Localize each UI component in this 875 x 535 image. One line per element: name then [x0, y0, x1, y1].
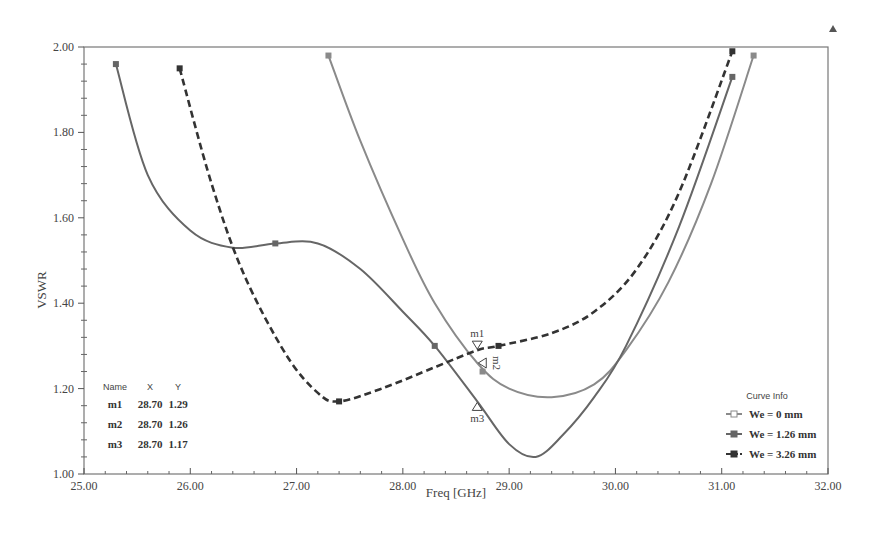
marker-table-cell: m2	[108, 418, 123, 430]
y-tick-label: 1.40	[53, 296, 74, 310]
y-tick-label: 1.60	[53, 211, 74, 225]
y-tick-label: 1.00	[53, 467, 74, 481]
marker-table-cell: m3	[108, 438, 123, 450]
series-end-marker	[325, 53, 331, 59]
marker-m1-label: m1	[470, 327, 484, 339]
series-group	[113, 48, 757, 457]
series-point-marker	[336, 398, 342, 404]
marker-table-cell: 1.26	[168, 418, 188, 430]
x-tick-label: 30.00	[602, 479, 629, 493]
marker-table-cell: m1	[108, 398, 123, 410]
series-end-marker	[729, 48, 735, 54]
series-line	[328, 56, 753, 398]
series-1	[325, 53, 756, 398]
legend-item-1[interactable]: We = 0 mm	[726, 408, 803, 420]
series-point-marker	[496, 343, 502, 349]
x-tick-label: 26.00	[177, 479, 204, 493]
x-tick-label: 29.00	[496, 479, 523, 493]
corner-triangle-icon[interactable]	[829, 25, 837, 32]
marker-table-cell: 28.70	[138, 418, 163, 430]
plot-border	[84, 47, 828, 474]
y-tick-label: 2.00	[53, 40, 74, 54]
series-line	[180, 51, 733, 401]
marker-table: NameXYm128.701.29m228.701.26m328.701.17	[103, 382, 188, 450]
marker-table-header: Name	[103, 382, 127, 392]
marker-m2-label: m2	[491, 356, 503, 370]
marker-table-cell: 28.70	[138, 438, 163, 450]
legend-marker-icon	[731, 431, 737, 437]
plot-frame	[84, 47, 828, 474]
marker-table-cell: 1.29	[168, 398, 188, 410]
x-axis-title: Freq [GHz]	[426, 485, 486, 500]
marker-table-cell: 28.70	[138, 398, 163, 410]
series-end-marker	[177, 65, 183, 71]
marker-table-cell: 1.17	[168, 438, 188, 450]
series-point-marker	[272, 240, 278, 246]
legend-label: We = 3.26 mm	[749, 448, 816, 460]
x-tick-label: 25.00	[71, 479, 98, 493]
series-line	[116, 64, 732, 457]
x-tick-label: 31.00	[708, 479, 735, 493]
x-tick-label: 27.00	[283, 479, 310, 493]
legend-marker-icon	[731, 411, 737, 417]
y-tick-label: 1.20	[53, 382, 74, 396]
x-tick-label: 32.00	[815, 479, 842, 493]
legend-label: We = 1.26 mm	[749, 428, 816, 440]
marker-m3-label: m3	[470, 412, 485, 424]
series-end-marker	[751, 53, 757, 59]
marker-table-header: X	[147, 382, 153, 392]
legend-item-3[interactable]: We = 3.26 mm	[726, 448, 816, 460]
legend: Curve InfoWe = 0 mmWe = 1.26 mmWe = 3.26…	[726, 391, 816, 460]
legend-title: Curve Info	[746, 391, 788, 401]
series-3	[177, 48, 736, 401]
y-axis-title: VSWR	[34, 271, 49, 309]
series-end-marker	[729, 74, 735, 80]
y-tick-label: 1.80	[53, 125, 74, 139]
series-2	[113, 61, 735, 457]
x-tick-label: 28.00	[389, 479, 416, 493]
legend-marker-icon	[731, 451, 737, 457]
legend-item-2[interactable]: We = 1.26 mm	[726, 428, 816, 440]
series-point-marker	[432, 343, 438, 349]
series-end-marker	[113, 61, 119, 67]
legend-label: We = 0 mm	[749, 408, 803, 420]
series-point-marker	[480, 369, 486, 375]
marker-table-header: Y	[175, 382, 181, 392]
markers-group: m1m2m3	[470, 327, 503, 424]
vswr-chart: 25.0026.0027.0028.0029.0030.0031.0032.00…	[0, 0, 875, 535]
